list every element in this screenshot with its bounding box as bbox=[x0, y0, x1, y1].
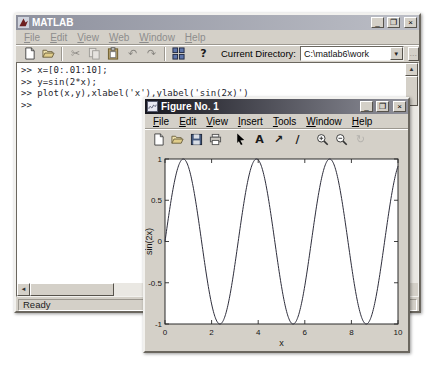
cut-icon: ✂ bbox=[71, 48, 80, 59]
menu-item-edit[interactable]: Edit bbox=[45, 32, 72, 43]
menu-item-view[interactable]: View bbox=[201, 116, 233, 127]
simulink-icon bbox=[172, 47, 185, 60]
matlab-minimize-button[interactable]: _ bbox=[371, 17, 384, 28]
copy-button[interactable] bbox=[85, 46, 104, 62]
undo-button[interactable]: ↶ bbox=[123, 46, 142, 62]
zoom-in-icon bbox=[316, 133, 329, 146]
arrow-annotation-icon: ↗ bbox=[274, 134, 283, 145]
help-button[interactable]: ? bbox=[194, 46, 213, 62]
save-figure-button[interactable] bbox=[187, 131, 206, 147]
figure-plot-svg: 024681010.50-0.5-1xsin(2x) bbox=[145, 149, 408, 351]
redo-button[interactable]: ↷ bbox=[142, 46, 161, 62]
menu-item-window[interactable]: Window bbox=[301, 116, 347, 127]
matlab-titlebar[interactable]: MATLAB _ ❐ × bbox=[16, 15, 419, 30]
figure-maximize-button[interactable]: ❐ bbox=[376, 101, 389, 112]
x-axis-label: x bbox=[279, 338, 284, 348]
menu-item-file[interactable]: File bbox=[19, 32, 45, 43]
current-directory-combo[interactable]: C:\matlab6\work ▼ bbox=[300, 46, 404, 61]
zoom-out-button[interactable] bbox=[332, 131, 351, 147]
svg-text:8: 8 bbox=[349, 328, 354, 337]
edit-pointer-button[interactable] bbox=[231, 131, 250, 147]
insert-arrow-button[interactable]: ↗ bbox=[269, 131, 288, 147]
scroll-left-button[interactable]: ◄ bbox=[17, 283, 30, 296]
new-document-icon bbox=[152, 133, 165, 146]
horizontal-scroll-thumb[interactable] bbox=[30, 283, 114, 296]
y-axis-label: sin(2x) bbox=[145, 228, 154, 255]
current-directory-label: Current Directory: bbox=[221, 48, 296, 59]
svg-text:-0.5: -0.5 bbox=[148, 279, 162, 288]
menu-item-insert[interactable]: Insert bbox=[233, 116, 268, 127]
menu-item-web[interactable]: Web bbox=[104, 32, 134, 43]
svg-text:1: 1 bbox=[158, 155, 163, 164]
matlab-window-title: MATLAB bbox=[32, 17, 368, 28]
matlab-toolbar: ✂↶↷? Current Directory: C:\matlab6\work … bbox=[16, 44, 419, 62]
open-figure-button[interactable] bbox=[168, 131, 187, 147]
line-annotation-icon: / bbox=[295, 134, 299, 145]
paste-button[interactable] bbox=[104, 46, 123, 62]
menu-item-tools[interactable]: Tools bbox=[268, 116, 301, 127]
svg-text:0.5: 0.5 bbox=[151, 196, 163, 205]
svg-text:0: 0 bbox=[158, 237, 163, 246]
figure-menubar: FileEditViewInsertToolsWindowHelp bbox=[145, 114, 408, 128]
svg-text:2: 2 bbox=[209, 328, 214, 337]
svg-text:-1: -1 bbox=[155, 320, 163, 329]
open-folder-icon bbox=[42, 47, 55, 60]
current-directory-dropdown-button[interactable]: ▼ bbox=[390, 47, 403, 60]
new-figure-button[interactable] bbox=[149, 131, 168, 147]
svg-text:10: 10 bbox=[394, 328, 403, 337]
menu-item-help[interactable]: Help bbox=[180, 32, 211, 43]
text-icon: A bbox=[255, 134, 264, 145]
scroll-up-button[interactable]: ▲ bbox=[405, 63, 418, 76]
figure-window-title: Figure No. 1 bbox=[161, 101, 357, 112]
figure-icon bbox=[147, 101, 158, 112]
figure-close-button[interactable]: × bbox=[393, 101, 406, 112]
open-file-button[interactable] bbox=[39, 46, 58, 62]
save-icon bbox=[190, 133, 203, 146]
new-file-button[interactable] bbox=[20, 46, 39, 62]
toolbar-separator bbox=[164, 47, 166, 61]
cut-button[interactable]: ✂ bbox=[66, 46, 85, 62]
paste-icon bbox=[107, 47, 120, 60]
svg-text:0: 0 bbox=[163, 328, 168, 337]
figure-canvas: 024681010.50-0.5-1xsin(2x) bbox=[145, 149, 408, 351]
rotate-3d-icon: ↻ bbox=[356, 134, 365, 145]
new-document-icon bbox=[23, 47, 36, 60]
menu-item-edit[interactable]: Edit bbox=[174, 116, 201, 127]
rotate-3d-button[interactable]: ↻ bbox=[351, 131, 370, 147]
status-text: Ready bbox=[23, 299, 50, 310]
figure-minimize-button[interactable]: _ bbox=[360, 101, 373, 112]
matlab-logo-icon bbox=[18, 17, 29, 28]
copy-icon bbox=[88, 47, 101, 60]
chevron-down-icon: ▼ bbox=[393, 51, 399, 57]
undo-icon: ↶ bbox=[128, 48, 137, 59]
svg-text:6: 6 bbox=[303, 328, 308, 337]
matlab-maximize-button[interactable]: ❐ bbox=[387, 17, 400, 28]
open-folder-icon bbox=[171, 133, 184, 146]
scroll-left-icon: ◄ bbox=[21, 286, 27, 292]
scroll-up-icon: ▲ bbox=[409, 66, 415, 72]
toolbar-separator bbox=[61, 47, 63, 61]
matlab-close-button[interactable]: × bbox=[404, 17, 417, 28]
figure-titlebar[interactable]: Figure No. 1 _ ❐ × bbox=[145, 99, 408, 114]
simulink-button[interactable] bbox=[169, 46, 188, 62]
insert-line-button[interactable]: / bbox=[288, 131, 307, 147]
svg-text:4: 4 bbox=[256, 328, 261, 337]
menu-item-view[interactable]: View bbox=[72, 32, 104, 43]
print-figure-button[interactable] bbox=[206, 131, 225, 147]
redo-icon: ↷ bbox=[147, 48, 156, 59]
pointer-icon bbox=[234, 133, 247, 146]
figure-window: Figure No. 1 _ ❐ × FileEditViewInsertToo… bbox=[143, 97, 410, 353]
zoom-out-icon bbox=[335, 133, 348, 146]
menu-item-file[interactable]: File bbox=[148, 116, 174, 127]
zoom-in-button[interactable] bbox=[313, 131, 332, 147]
figure-toolbar: A↗/↻ bbox=[145, 128, 408, 149]
menu-item-window[interactable]: Window bbox=[134, 32, 180, 43]
current-directory-value: C:\matlab6\work bbox=[301, 49, 390, 59]
matlab-menubar: FileEditViewWebWindowHelp bbox=[16, 30, 419, 44]
browse-directory-button[interactable]: ... bbox=[408, 47, 419, 61]
menu-item-help[interactable]: Help bbox=[347, 116, 378, 127]
help-icon: ? bbox=[200, 48, 206, 59]
insert-text-button[interactable]: A bbox=[250, 131, 269, 147]
print-icon bbox=[209, 133, 222, 146]
command-line: >> y=sin(2*x); bbox=[21, 77, 405, 89]
